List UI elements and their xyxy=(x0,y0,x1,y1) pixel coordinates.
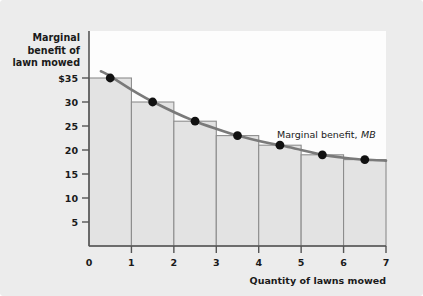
y-axis-title-line-1: Marginal xyxy=(32,32,80,43)
x-tick-label-3: 3 xyxy=(213,257,220,268)
bar-2 xyxy=(131,102,173,246)
x-tick-label-5: 5 xyxy=(298,257,305,268)
curve-annotation: Marginal benefit, MB xyxy=(277,129,376,140)
marginal-benefit-chart: $35 30 25 20 15 10 5 0 1 2 3 4 5 6 7 Mar… xyxy=(0,0,423,296)
y-tick-label-5: 5 xyxy=(71,217,78,228)
bar-7 xyxy=(344,160,386,246)
data-point-5 xyxy=(276,141,285,150)
y-tick-label-25: 25 xyxy=(65,121,78,132)
x-tick-label-1: 1 xyxy=(128,257,135,268)
y-tick-label-20: 20 xyxy=(65,145,79,156)
bar-1 xyxy=(89,78,131,246)
x-tick-label-7: 7 xyxy=(383,257,390,268)
y-tick-label-30: 30 xyxy=(65,97,79,108)
data-point-7 xyxy=(360,155,369,164)
chart-figure: $35 30 25 20 15 10 5 0 1 2 3 4 5 6 7 Mar… xyxy=(0,0,423,296)
bar-5 xyxy=(259,145,301,246)
x-tick-label-2: 2 xyxy=(171,257,178,268)
curve-label-emphasis: MB xyxy=(361,129,376,140)
data-point-6 xyxy=(318,150,327,159)
data-point-2 xyxy=(148,98,157,107)
bar-3 xyxy=(174,121,216,246)
y-tick-label-10: 10 xyxy=(65,193,79,204)
y-tick-label-35: $35 xyxy=(58,73,78,84)
data-point-3 xyxy=(191,117,200,126)
y-axis-title-line-3: lawn mowed xyxy=(12,57,80,68)
x-tick-label-4: 4 xyxy=(255,257,262,268)
curve-label-text: Marginal benefit, xyxy=(277,129,357,140)
y-tick-label-15: 15 xyxy=(65,169,78,180)
bar-6 xyxy=(301,155,343,246)
x-axis-title: Quantity of lawns mowed xyxy=(250,275,386,286)
bar-4 xyxy=(216,136,258,246)
data-point-1 xyxy=(106,74,115,83)
y-axis-title-line-2: benefit of xyxy=(27,45,80,56)
x-tick-label-6: 6 xyxy=(340,257,347,268)
x-tick-label-0: 0 xyxy=(86,257,93,268)
data-point-4 xyxy=(233,131,242,140)
